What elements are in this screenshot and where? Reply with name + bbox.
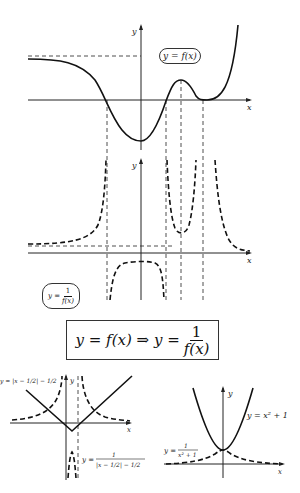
formula-left: y = f(x) ⇒ y = — [76, 331, 180, 349]
formula-fraction: 1 f(x) — [184, 324, 210, 357]
reciprocal-label-num: 1 — [184, 442, 188, 449]
middle-graph: y x — [28, 158, 252, 300]
reciprocal-label: y = 1 f(x) — [42, 283, 80, 309]
x-arrow-icon — [246, 98, 252, 102]
figure-canvas: y x y x y x — [0, 0, 300, 493]
formula-box: y = f(x) ⇒ y = 1 f(x) — [66, 320, 219, 360]
y-axis-label: y — [131, 27, 137, 36]
x-axis-label: x — [278, 468, 282, 476]
reciprocal-branch-2 — [110, 262, 164, 301]
reciprocal-label-den: x² + 1 — [178, 451, 196, 458]
x-axis-label: x — [247, 256, 252, 265]
y-arrow-icon — [139, 24, 143, 30]
reciprocal-branch-3 — [167, 160, 196, 233]
abs-label: y = |x − 1/2| − 1/2 — [0, 377, 57, 385]
f-label: y = f(x) — [159, 48, 201, 64]
y-arrow-icon — [139, 158, 143, 164]
y-axis-label: y — [227, 389, 233, 398]
x-axis-label: x — [247, 103, 252, 112]
reciprocal-label-prefix: y = — [163, 447, 176, 455]
y-arrow-icon — [221, 386, 225, 392]
y-axis-label: y — [131, 161, 137, 170]
y-arrow-icon — [64, 374, 68, 380]
x-axis-label: x — [127, 426, 131, 434]
abs-reciprocal-middle — [68, 452, 76, 478]
y-axis-label: y — [69, 377, 75, 385]
abs-reciprocal-label-num: 1 — [112, 451, 116, 458]
reciprocal-branch-4 — [215, 160, 250, 251]
f-curve — [28, 25, 238, 141]
bottom-right-graph: y x y = x² + 1 y = 1 x² + 1 — [163, 386, 288, 478]
parabola-label: y = x² + 1 — [246, 411, 288, 420]
reciprocal-branch-1 — [28, 160, 106, 244]
abs-reciprocal-label-prefix: y = — [81, 456, 94, 464]
abs-reciprocal-label-den: |x − 1/2| − 1/2 — [96, 461, 141, 469]
